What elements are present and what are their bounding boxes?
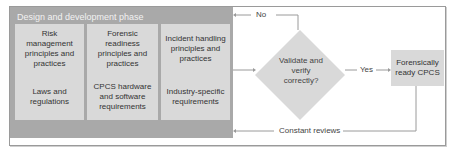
decision-diamond: Validate and verify correctly? [255,30,345,120]
connector-lines [0,0,454,152]
decision-text: Validate and verify correctly? [275,56,327,86]
edge-label-no: No [253,10,269,19]
result-box: Forensically ready CPCS [391,50,444,86]
edge-label-yes: Yes [357,65,376,74]
edge-label-constant-reviews: Constant reviews [276,126,343,135]
